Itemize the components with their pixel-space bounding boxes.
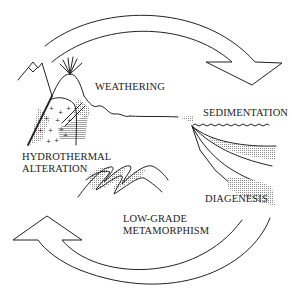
svg-text:+: + xyxy=(58,108,63,115)
svg-text:+: + xyxy=(55,116,60,123)
svg-text:+: + xyxy=(48,126,53,133)
svg-text:+: + xyxy=(44,114,49,121)
svg-text:+: + xyxy=(67,116,72,123)
svg-text:+: + xyxy=(38,126,43,133)
svg-text:+: + xyxy=(63,131,68,138)
svg-text:+: + xyxy=(46,137,51,144)
sedimentary-basin-illustration xyxy=(178,116,276,205)
folded-strata-illustration xyxy=(78,166,168,197)
label-diagenesis: DIAGENESIS xyxy=(205,193,268,204)
label-low-grade-line1: LOW-GRADE xyxy=(123,213,187,224)
label-low-grade-line2: METAMORPHISM xyxy=(123,225,210,236)
svg-text:+: + xyxy=(54,136,59,143)
label-hydrothermal-line1: HYDROTHERMAL xyxy=(22,151,111,162)
label-sedimentation: SEDIMENTATION xyxy=(203,107,288,118)
svg-text:+: + xyxy=(66,104,71,111)
mountain-volcano-illustration: +++ +++ +++ +++ xyxy=(18,57,178,145)
svg-text:+: + xyxy=(49,104,54,111)
rock-cycle-diagram: +++ +++ +++ +++ WEATHERING SEDIMENTATION… xyxy=(0,0,292,302)
label-hydrothermal-line2: ALTERATION xyxy=(22,163,88,174)
label-weathering: WEATHERING xyxy=(95,81,165,92)
top-cycle-arrow xyxy=(45,15,282,85)
